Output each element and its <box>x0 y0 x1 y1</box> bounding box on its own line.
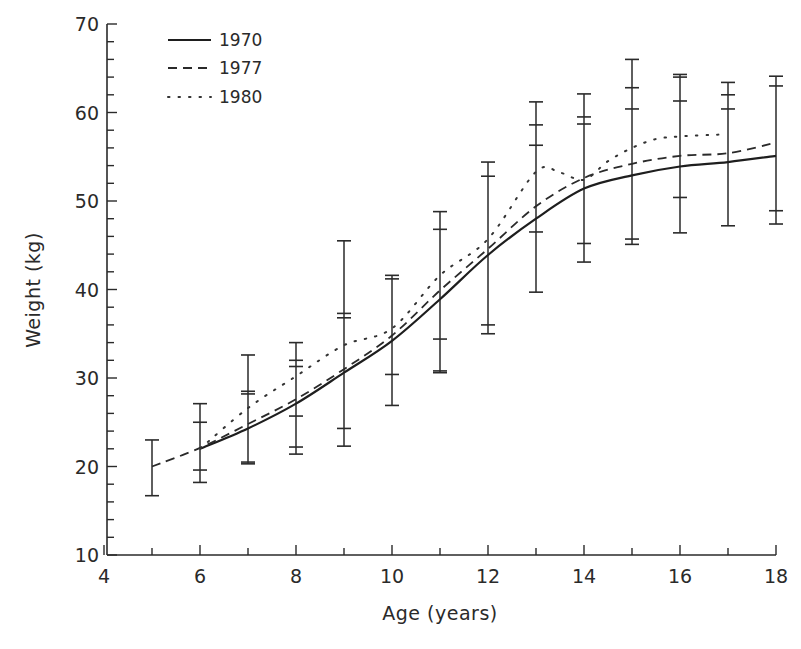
x-tick-label: 8 <box>290 565 302 587</box>
error-bar <box>193 404 207 483</box>
legend-item-1977: 1977 <box>168 58 262 78</box>
y-ticks: 10203040506070 <box>75 13 117 566</box>
y-tick-label: 20 <box>75 456 99 478</box>
x-tick-label: 10 <box>380 565 404 587</box>
x-tick-label: 4 <box>98 565 110 587</box>
error-bar <box>529 102 543 292</box>
x-ticks: 4681012141618 <box>98 545 788 587</box>
legend-item-1970: 1970 <box>168 30 262 50</box>
error-bar <box>673 74 687 232</box>
legend-label: 1980 <box>219 87 262 107</box>
y-tick-label: 50 <box>75 190 99 212</box>
series-line-1980 <box>200 135 718 449</box>
series-lines <box>152 135 776 467</box>
error-bar <box>577 94 591 262</box>
error-bar <box>289 343 303 455</box>
weight-by-age-chart: 4681012141618 10203040506070 Age (years)… <box>0 0 801 649</box>
error-bar <box>241 355 255 464</box>
error-bar <box>625 59 639 244</box>
x-tick-label: 14 <box>572 565 596 587</box>
legend-label: 1977 <box>219 58 262 78</box>
error-bar <box>481 162 495 334</box>
x-tick-label: 6 <box>194 565 206 587</box>
y-tick-label: 40 <box>75 279 99 301</box>
x-tick-label: 16 <box>668 565 692 587</box>
legend-item-1980: 1980 <box>168 87 262 107</box>
error-bar <box>145 440 159 496</box>
y-axis-title: Weight (kg) <box>22 232 44 348</box>
error-bar <box>769 76 783 224</box>
x-tick-label: 18 <box>764 565 788 587</box>
series-line-1977 <box>152 143 776 467</box>
x-tick-label: 12 <box>476 565 500 587</box>
error-bar <box>433 212 447 373</box>
legend: 1970 1977 1980 <box>168 30 262 107</box>
x-axis-title: Age (years) <box>382 602 497 624</box>
axes: 4681012141618 10203040506070 <box>75 13 788 587</box>
y-tick-label: 60 <box>75 102 99 124</box>
y-tick-label: 70 <box>75 13 99 35</box>
y-tick-label: 10 <box>75 544 99 566</box>
y-tick-label: 30 <box>75 367 99 389</box>
error-bar <box>337 241 351 446</box>
legend-label: 1970 <box>219 30 262 50</box>
